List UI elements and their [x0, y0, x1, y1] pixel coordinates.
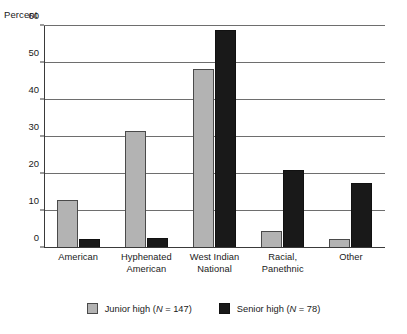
y-axis-line [44, 26, 45, 248]
legend-label: Junior high (N = 147) [105, 304, 192, 314]
x-axis-label: American [44, 252, 112, 275]
x-axis-labels: AmericanHyphenatedAmericanWest IndianNat… [44, 252, 385, 275]
chart-legend: Junior high (N = 147)Senior high (N = 78… [0, 303, 407, 314]
bar-group [44, 26, 112, 248]
y-tick-label: 0 [34, 232, 39, 243]
bar-group [112, 26, 180, 248]
y-tick-label: 30 [28, 121, 39, 132]
bar [193, 69, 214, 248]
bar [283, 170, 304, 248]
bar-chart-figure: Percent 0102030405060 AmericanHyphenated… [0, 0, 407, 334]
legend-swatch [87, 303, 98, 314]
bar [261, 231, 282, 248]
bar-group [249, 26, 317, 248]
legend-swatch [219, 303, 230, 314]
legend-label: Senior high (N = 78) [237, 304, 320, 314]
legend-entry: Junior high (N = 147) [87, 303, 192, 314]
bar [57, 200, 78, 248]
y-tick-label: 40 [28, 84, 39, 95]
x-axis-label: West IndianNational [180, 252, 248, 275]
bar [215, 30, 236, 248]
bar-group [317, 26, 385, 248]
bar-group [180, 26, 248, 248]
x-axis-label: HyphenatedAmerican [112, 252, 180, 275]
y-tick-label: 60 [28, 10, 39, 21]
y-tick-label: 10 [28, 195, 39, 206]
x-axis-label: Racial,Panethnic [249, 252, 317, 275]
x-axis-line [44, 247, 385, 248]
legend-entry: Senior high (N = 78) [219, 303, 320, 314]
bar [351, 183, 372, 248]
y-tick-label: 20 [28, 158, 39, 169]
bar [125, 131, 146, 248]
bar-groups [44, 26, 385, 248]
y-tick-label: 50 [28, 47, 39, 58]
x-axis-label: Other [317, 252, 385, 275]
plot-area: 0102030405060 [44, 26, 385, 248]
